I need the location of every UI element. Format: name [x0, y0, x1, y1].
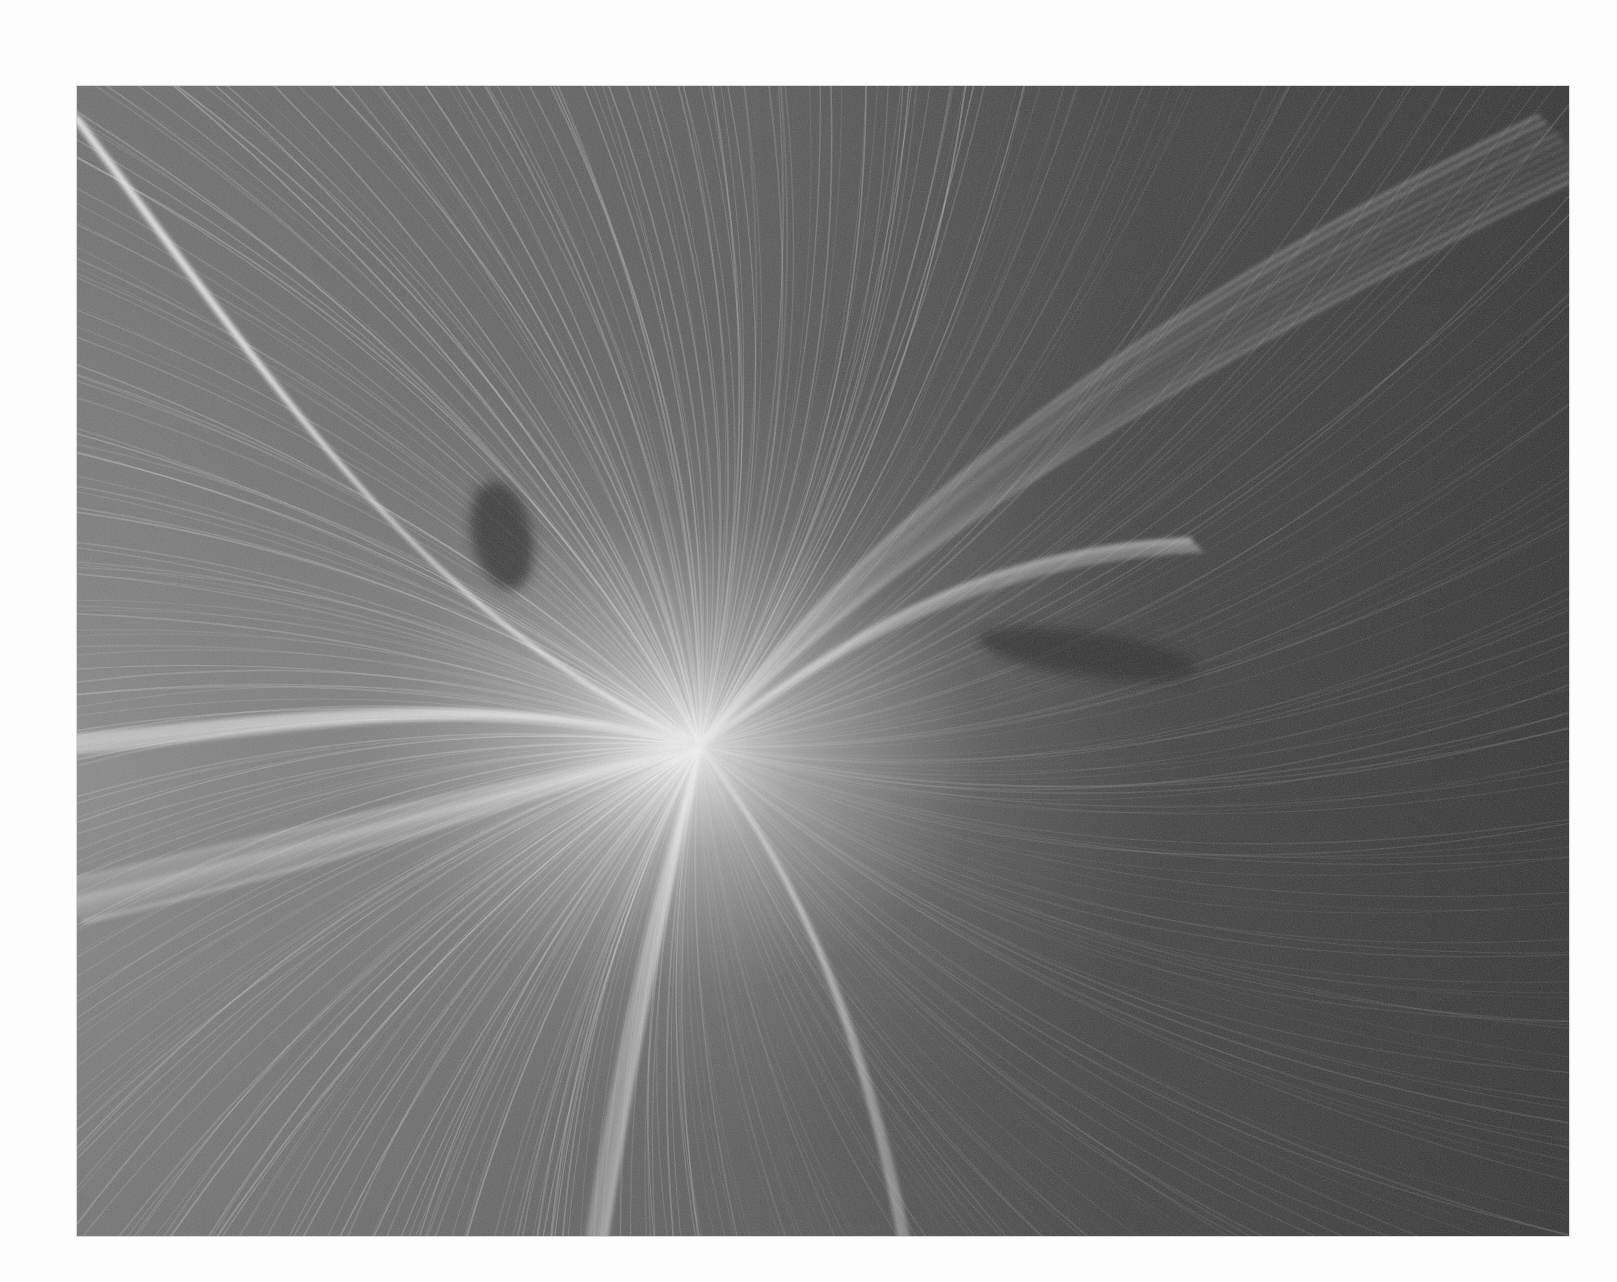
streamline-canvas	[77, 86, 1569, 1236]
grain-texture	[77, 86, 1569, 1236]
page	[0, 0, 1617, 1282]
flow-field-artwork	[77, 86, 1569, 1236]
